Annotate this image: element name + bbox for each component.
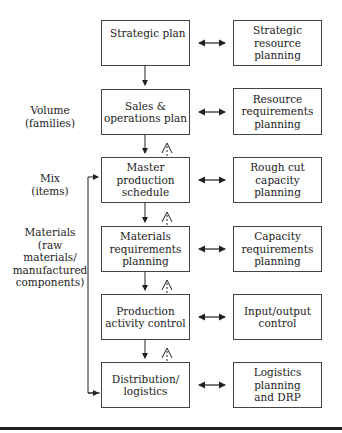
box-label: Resource requirements planning bbox=[242, 93, 314, 131]
box-strategic-resource-planning: Strategic resource planning bbox=[233, 20, 322, 66]
box-master-production-schedule: Master production schedule bbox=[101, 157, 190, 203]
box-logistics-planning-drp: Logistics planning and DRP bbox=[233, 362, 322, 408]
box-label: Production activity control bbox=[105, 305, 185, 330]
box-rough-cut-capacity-planning: Rough cut capacity planning bbox=[233, 157, 322, 203]
box-materials-requirements-planning: Materials requirements planning bbox=[101, 226, 190, 272]
label-volume: Volume (families) bbox=[20, 104, 80, 129]
box-label: Strategic resource planning bbox=[253, 24, 302, 62]
bottom-rule bbox=[0, 427, 342, 430]
box-label: Rough cut capacity planning bbox=[250, 161, 305, 199]
box-production-activity-control: Production activity control bbox=[101, 294, 190, 340]
box-distribution-logistics: Distribution/ logistics bbox=[101, 362, 190, 408]
box-label: Logistics planning and DRP bbox=[254, 366, 302, 404]
box-sales-operations-plan: Sales & operations plan bbox=[101, 89, 190, 135]
box-capacity-requirements-planning: Capacity requirements planning bbox=[233, 226, 322, 272]
box-label: Distribution/ logistics bbox=[112, 373, 179, 398]
box-label: Strategic plan bbox=[110, 27, 186, 40]
box-label: Capacity requirements planning bbox=[242, 230, 314, 268]
mpc-hierarchy-diagram: Strategic plan Sales & operations plan M… bbox=[0, 0, 342, 433]
box-label: Input/output control bbox=[244, 305, 311, 330]
label-mix: Mix (items) bbox=[20, 172, 80, 197]
box-label: Master production schedule bbox=[116, 161, 174, 199]
box-label: Sales & operations plan bbox=[104, 100, 187, 125]
box-strategic-plan: Strategic plan bbox=[101, 20, 190, 66]
box-label: Materials requirements planning bbox=[110, 230, 182, 268]
box-resource-requirements-planning: Resource requirements planning bbox=[233, 88, 322, 135]
box-input-output-control: Input/output control bbox=[233, 294, 322, 340]
label-materials: Materials (raw materials/ manufactured c… bbox=[10, 226, 90, 289]
